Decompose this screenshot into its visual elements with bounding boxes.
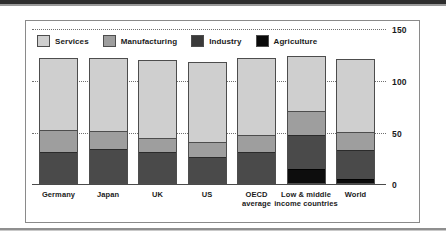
bar-segment-agriculture	[337, 179, 374, 183]
bar-column	[138, 60, 177, 184]
bar-segment-industry	[189, 157, 226, 183]
bar-segment-manufacturing	[189, 142, 226, 156]
legend-item-agriculture: Agriculture	[256, 35, 318, 47]
legend-swatch-agriculture-icon	[256, 35, 269, 47]
bar-column	[188, 62, 227, 184]
bar-segment-industry	[238, 152, 275, 183]
legend-item-services: Services	[37, 35, 89, 47]
legend-item-manufacturing: Manufacturing	[103, 35, 177, 47]
bar-column	[39, 58, 78, 184]
chart-legend: Services Manufacturing Industry Agricult…	[37, 35, 331, 47]
bar-segment-industry	[90, 149, 127, 183]
ytick-label-100: 100	[392, 77, 407, 87]
bar-segment-services	[90, 59, 127, 131]
bar-column	[336, 59, 375, 184]
ytick-label-0: 0	[392, 180, 397, 190]
category-label-line: income countries	[273, 199, 339, 208]
bar-segment-industry	[288, 135, 325, 169]
bar-segment-services	[238, 59, 275, 135]
bar-segment-agriculture	[288, 169, 325, 183]
bar-segment-services	[189, 63, 226, 142]
legend-swatch-manufacturing-icon	[103, 35, 116, 47]
page-top-band-shadow	[0, 4, 446, 6]
legend-item-industry: Industry	[191, 35, 241, 47]
ytick-label-150: 150	[392, 25, 407, 35]
bar-segment-industry	[139, 152, 176, 183]
bar-segment-services	[337, 60, 374, 132]
bar-segment-manufacturing	[139, 138, 176, 152]
axis-line-zero	[32, 184, 386, 185]
bar-segment-manufacturing	[40, 130, 77, 152]
legend-label-services: Services	[55, 37, 89, 46]
legend-label-agriculture: Agriculture	[274, 37, 318, 46]
bar-segment-manufacturing	[90, 131, 127, 149]
legend-label-manufacturing: Manufacturing	[121, 37, 177, 46]
category-label: World	[323, 190, 389, 199]
gridline-150	[32, 29, 386, 30]
bar-segment-services	[40, 59, 77, 130]
bar-column	[237, 58, 276, 184]
bar-segment-industry	[337, 150, 374, 178]
page-bottom-rule-secondary	[0, 230, 446, 231]
bar-segment-services	[288, 57, 325, 111]
legend-swatch-industry-icon	[191, 35, 204, 47]
legend-swatch-services-icon	[37, 35, 50, 47]
legend-label-industry: Industry	[209, 37, 241, 46]
bar-segment-manufacturing	[337, 132, 374, 150]
bar-segment-industry	[40, 152, 77, 183]
bar-segment-services	[139, 61, 176, 138]
bar-segment-manufacturing	[288, 111, 325, 135]
bar-column	[89, 58, 128, 184]
category-label-line: World	[323, 190, 389, 199]
bar-segment-manufacturing	[238, 135, 275, 152]
ytick-label-50: 50	[392, 129, 402, 139]
bar-column	[287, 56, 326, 184]
